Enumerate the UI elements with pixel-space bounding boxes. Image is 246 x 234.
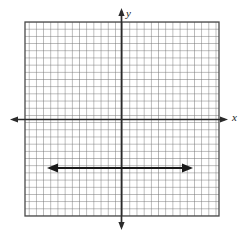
y-axis-bottom-arrowhead <box>118 222 124 230</box>
coordinate-graph-figure: x y <box>0 0 246 234</box>
graph-canvas <box>0 0 246 234</box>
x-axis-label: x <box>232 112 237 123</box>
y-axis-top-arrowhead <box>118 8 124 16</box>
x-axis-right-arrowhead <box>220 116 228 122</box>
x-axis-left-arrowhead <box>10 116 18 122</box>
y-axis-label: y <box>126 8 131 19</box>
